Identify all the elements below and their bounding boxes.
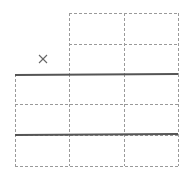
solid-divider-line [15, 74, 178, 75]
solid-divider-line [15, 134, 178, 135]
cross-mark-icon [39, 55, 47, 63]
dashed-grid-lines [15, 13, 179, 167]
grid-diagram [0, 0, 187, 173]
